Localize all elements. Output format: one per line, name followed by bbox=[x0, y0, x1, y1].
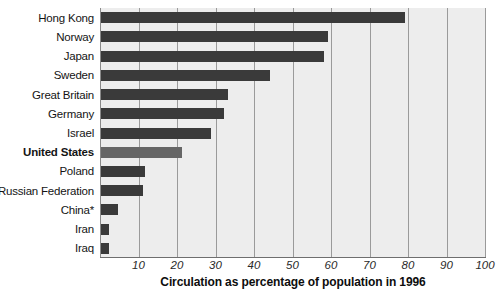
category-label: Iraq bbox=[75, 242, 94, 254]
bar bbox=[101, 31, 328, 42]
category-label: Poland bbox=[59, 165, 94, 177]
tick-label-90: 90 bbox=[440, 259, 453, 271]
tick-label-60: 60 bbox=[325, 259, 338, 271]
tick-label-30: 30 bbox=[209, 259, 222, 271]
category-label: Iran bbox=[75, 223, 94, 235]
bar bbox=[101, 12, 405, 23]
bar bbox=[101, 147, 182, 158]
category-label: Japan bbox=[64, 50, 94, 62]
tick-label-20: 20 bbox=[171, 259, 184, 271]
category-label: Sweden bbox=[54, 69, 94, 81]
category-label: Great Britain bbox=[32, 89, 94, 101]
category-label: Hong Kong bbox=[38, 12, 94, 24]
gridline-70 bbox=[370, 8, 371, 258]
x-axis-title: Circulation as percentage of population … bbox=[100, 275, 486, 289]
category-label: China* bbox=[61, 204, 94, 216]
bar bbox=[101, 128, 211, 139]
gridline-40 bbox=[254, 8, 255, 258]
bar bbox=[101, 224, 109, 235]
category-label-column: Hong KongNorwayJapanSwedenGreat BritainG… bbox=[0, 0, 97, 258]
category-label: Russian Federation bbox=[0, 185, 94, 197]
tick-label-40: 40 bbox=[248, 259, 261, 271]
category-label: Norway bbox=[56, 31, 94, 43]
tick-label-70: 70 bbox=[363, 259, 376, 271]
plot-inner bbox=[101, 8, 485, 258]
bar bbox=[101, 243, 109, 254]
tick-label-100: 100 bbox=[475, 259, 494, 271]
gridline-60 bbox=[331, 8, 332, 258]
bar bbox=[101, 166, 145, 177]
x-axis-tick-labels: 102030405060708090100 bbox=[0, 259, 498, 275]
plot-area bbox=[100, 8, 485, 258]
bar bbox=[101, 70, 270, 81]
category-label: Germany bbox=[48, 108, 94, 120]
bar bbox=[101, 108, 224, 119]
gridline-30 bbox=[216, 8, 217, 258]
tick-label-80: 80 bbox=[402, 259, 415, 271]
bar-chart-figure: Hong KongNorwayJapanSwedenGreat BritainG… bbox=[0, 0, 498, 293]
tick-label-50: 50 bbox=[286, 259, 299, 271]
category-label: United States bbox=[23, 146, 94, 158]
gridline-50 bbox=[293, 8, 294, 258]
gridline-100 bbox=[485, 8, 486, 258]
bar bbox=[101, 89, 228, 100]
tick-label-10: 10 bbox=[132, 259, 145, 271]
bar bbox=[101, 51, 324, 62]
bar bbox=[101, 204, 118, 215]
gridline-80 bbox=[408, 8, 409, 258]
bar bbox=[101, 185, 143, 196]
x-axis-line bbox=[100, 257, 486, 258]
gridline-90 bbox=[447, 8, 448, 258]
category-label: Israel bbox=[67, 127, 94, 139]
